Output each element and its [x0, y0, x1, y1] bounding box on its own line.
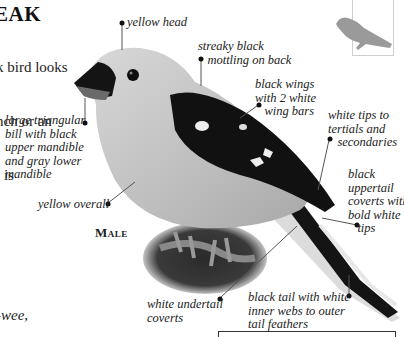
callout-bill: large triangular bill with black upper m…: [5, 114, 85, 182]
callout-uppertail-coverts: black uppertail coverts with bold white …: [348, 168, 404, 236]
callout-black-tail: black tail with white inner webs to oute…: [248, 291, 350, 332]
callout-yellow-overall: yellow overall: [38, 198, 109, 212]
callout-black-wings: black wings with 2 white wing bars: [255, 78, 316, 119]
female-caption-fragment: black-streaked yellowish olive: [5, 313, 80, 337]
inset-box-edge: [218, 331, 396, 337]
bird-silhouette-icon: [332, 10, 396, 56]
callout-undertail-coverts: white undertail coverts: [147, 298, 223, 325]
sex-label: Male: [95, 225, 128, 241]
callout-yellow-head: yellow head: [127, 16, 187, 30]
callout-white-tips: white tips to tertials and secondaries: [328, 109, 397, 150]
callout-streaky-back: streaky black mottling on back: [198, 40, 291, 67]
